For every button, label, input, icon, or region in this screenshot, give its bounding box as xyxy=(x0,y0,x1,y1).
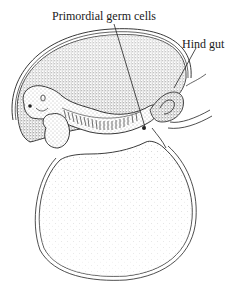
germ-cells-marker xyxy=(142,126,146,130)
label-primordial-germ-cells: Primordial germ cells xyxy=(52,10,156,22)
label-hind-gut: Hind gut xyxy=(182,38,224,50)
yolk-sac xyxy=(35,141,196,280)
diagram-canvas: Primordial germ cells Hind gut xyxy=(0,0,236,290)
heart-bulge xyxy=(43,113,69,148)
